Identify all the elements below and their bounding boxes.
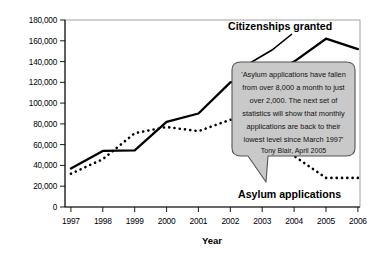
x-tick-label-2006: 2006	[349, 216, 367, 226]
citizenships-leader-line	[250, 34, 292, 63]
y-tick-label-60000: 60,000	[33, 141, 57, 150]
callout-attribution: Tony Blair, April 2005	[261, 147, 326, 155]
y-tick-label-40000: 40,000	[33, 161, 57, 170]
x-tick-label-2000: 2000	[158, 216, 176, 226]
x-tick-label-2004: 2004	[285, 216, 303, 226]
y-axis-ticks	[60, 20, 65, 207]
y-tick-label-120000: 120,000	[29, 78, 58, 87]
quote-callout: 'Asylum applications have fallen from ov…	[232, 62, 355, 182]
x-tick-label-2005: 2005	[317, 216, 335, 226]
y-tick-label-180000: 180,000	[29, 16, 58, 25]
x-tick-label-1997: 1997	[62, 216, 80, 226]
series-label-citizenships-granted: Citizenships granted	[228, 20, 332, 32]
y-tick-label-140000: 140,000	[29, 58, 58, 67]
callout-line-6: lowest level since March 1997'	[243, 135, 344, 144]
line-chart: 0 20,000 40,000 60,000 80,000 100,000 12…	[0, 0, 384, 272]
y-tick-label-160000: 160,000	[29, 37, 58, 46]
series-label-asylum-applications: Asylum applications	[238, 188, 341, 200]
x-tick-label-2003: 2003	[253, 216, 271, 226]
x-tick-label-1998: 1998	[94, 216, 112, 226]
x-tick-label-1999: 1999	[126, 216, 144, 226]
callout-line-3: over 2,000. The next set of	[250, 96, 339, 105]
callout-line-1: 'Asylum applications have fallen	[241, 70, 346, 79]
y-tick-label-100000: 100,000	[29, 99, 58, 108]
chart-container: 0 20,000 40,000 60,000 80,000 100,000 12…	[0, 0, 384, 272]
callout-line-2: from over 8,000 a month to just	[242, 83, 344, 92]
callout-line-4: statistics will show that monthly	[242, 109, 345, 118]
x-axis-title: Year	[202, 235, 222, 246]
y-tick-label-0: 0	[53, 203, 58, 212]
x-axis-ticks	[71, 207, 358, 212]
y-tick-label-80000: 80,000	[33, 120, 57, 129]
x-tick-label-2002: 2002	[221, 216, 239, 226]
y-tick-label-20000: 20,000	[33, 182, 57, 191]
x-tick-label-2001: 2001	[189, 216, 207, 226]
callout-line-5: applications are back to their	[246, 122, 341, 131]
